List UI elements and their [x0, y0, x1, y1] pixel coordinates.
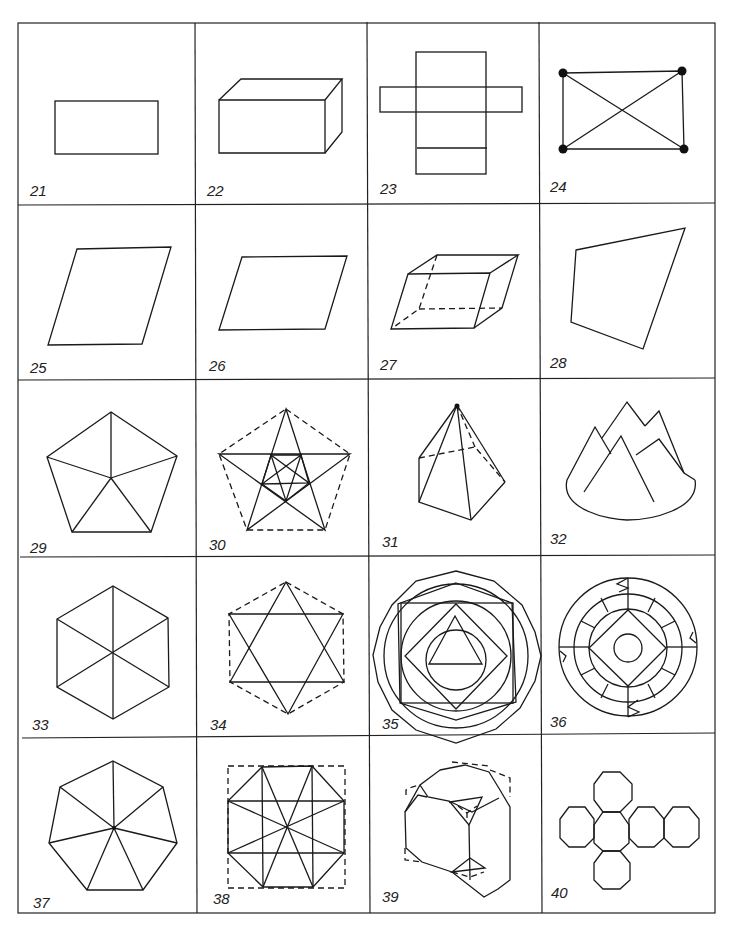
figure-number: 23: [379, 180, 397, 197]
figure-33-hexagon: 33: [32, 586, 169, 733]
figure-number: 27: [379, 356, 397, 373]
figure-number: 26: [208, 357, 226, 374]
figure-number: 34: [210, 716, 227, 733]
figure-35-nested-polygons: 35: [373, 571, 541, 743]
figure-number: 38: [213, 890, 230, 907]
figure-number: 29: [29, 539, 47, 556]
figure-number: 25: [29, 359, 47, 376]
figure-number: 22: [206, 182, 224, 199]
figure-38-octagon-diagonals: 38: [213, 766, 345, 907]
figure-number: 39: [382, 888, 399, 905]
figure-22-box: 22: [206, 79, 342, 199]
figure-23-box-net: 23: [379, 52, 522, 197]
figure-number: 28: [549, 354, 567, 371]
figure-number: 40: [551, 884, 568, 901]
figure-40-octagon-net: 40: [551, 772, 699, 901]
figure-grid: 21 22 23 24 25 26: [0, 0, 738, 930]
figure-34-hexagram: 34: [210, 582, 344, 733]
figure-30-pentagram: 30: [209, 409, 350, 553]
figure-26-parallelogram: 26: [208, 256, 347, 374]
figure-number: 21: [29, 182, 47, 199]
figure-number: 35: [382, 715, 399, 732]
figure-29-pentagon: 29: [29, 412, 177, 556]
figure-39-truncated-cube: 39: [382, 762, 510, 905]
figure-36-concentric-rings: 36: [550, 578, 697, 730]
figure-number: 30: [209, 536, 226, 553]
figure-32-mountains: 32: [550, 402, 695, 547]
figure-37-heptagon: 37: [33, 761, 177, 911]
figure-21-rectangle: 21: [29, 101, 158, 199]
figure-number: 37: [33, 894, 50, 911]
figure-number: 31: [382, 533, 399, 550]
figure-number: 32: [550, 530, 567, 547]
figure-31-pyramid: 31: [382, 404, 505, 551]
figure-24-rectangle-diagonals: 24: [549, 67, 689, 196]
figure-number: 36: [550, 713, 567, 730]
figure-number: 24: [549, 178, 567, 195]
figure-27-parallelepiped: 27: [379, 255, 518, 373]
figure-number: 33: [32, 716, 49, 733]
grid-lines: [18, 22, 715, 913]
figure-28-quadrilateral: 28: [549, 228, 685, 371]
figure-25-rhombus: 25: [29, 247, 171, 376]
